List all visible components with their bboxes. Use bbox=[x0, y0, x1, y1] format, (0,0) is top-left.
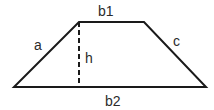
label-c: c bbox=[173, 33, 180, 49]
label-a: a bbox=[34, 37, 42, 53]
label-b1: b1 bbox=[98, 3, 114, 19]
label-b2: b2 bbox=[105, 93, 121, 109]
trapezoid-outline bbox=[14, 22, 206, 87]
trapezoid-diagram: b1 a h c b2 bbox=[0, 0, 214, 110]
label-h: h bbox=[85, 50, 93, 66]
